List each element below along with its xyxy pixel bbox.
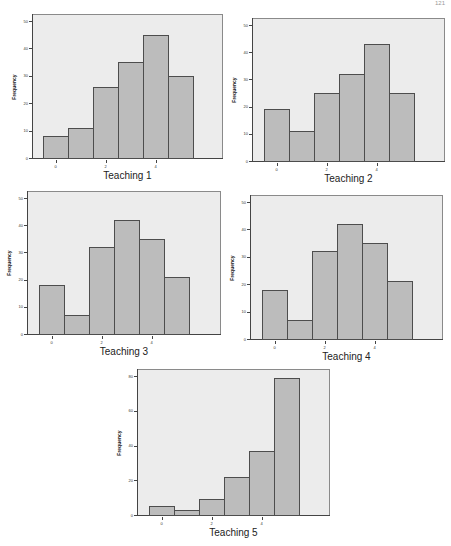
- x-tick-label: 0: [272, 167, 282, 172]
- bar-3: [224, 477, 250, 516]
- x-tick-label: 4: [372, 167, 382, 172]
- y-tick-label: 20: [236, 104, 248, 109]
- bar-1: [289, 131, 315, 162]
- y-tick-label: 50: [16, 19, 28, 24]
- y-tick: [134, 411, 137, 412]
- x-tick: [156, 160, 157, 163]
- y-tick-label: 20: [234, 282, 246, 287]
- y-tick: [247, 229, 250, 230]
- y-tick: [134, 515, 137, 516]
- y-tick-label: 10: [11, 304, 23, 309]
- bar-0: [43, 136, 69, 159]
- bar-4: [364, 44, 390, 162]
- y-tick: [134, 446, 137, 447]
- bar-0: [149, 506, 175, 516]
- y-tick: [247, 202, 250, 203]
- y-tick-label: 80: [121, 374, 133, 379]
- bar-1: [287, 320, 313, 340]
- bar-5: [168, 76, 194, 159]
- y-tick-label: 30: [234, 254, 246, 259]
- y-axis: [27, 191, 28, 335]
- x-tick: [375, 341, 376, 344]
- y-tick: [247, 284, 250, 285]
- y-tick: [24, 225, 27, 226]
- x-tick: [102, 336, 103, 339]
- bar-3: [337, 224, 363, 340]
- x-tick-label: 2: [207, 521, 217, 526]
- bar-2: [93, 87, 119, 159]
- x-tick-label: 2: [101, 164, 111, 169]
- y-tick-label: 10: [234, 309, 246, 314]
- bar-1: [174, 510, 200, 516]
- x-tick: [162, 517, 163, 520]
- y-tick-label: 50: [234, 200, 246, 205]
- y-tick: [29, 76, 32, 77]
- y-axis-label: Frequency: [116, 423, 122, 463]
- y-tick-label: 40: [16, 46, 28, 51]
- y-tick-label: 0: [16, 156, 28, 161]
- y-tick: [249, 79, 252, 80]
- x-tick-label: 0: [157, 521, 167, 526]
- x-tick: [275, 341, 276, 344]
- y-tick: [247, 257, 250, 258]
- bar-4: [249, 451, 275, 516]
- x-tick-label: 2: [322, 167, 332, 172]
- bar-5: [274, 378, 300, 516]
- y-tick: [29, 158, 32, 159]
- y-tick-label: 30: [236, 77, 248, 82]
- x-tick: [106, 160, 107, 163]
- y-tick-label: 0: [236, 159, 248, 164]
- y-tick-label: 10: [236, 131, 248, 136]
- y-tick-label: 10: [16, 128, 28, 133]
- x-tick-label: 2: [97, 340, 107, 345]
- y-tick: [134, 376, 137, 377]
- chart-title: Teaching 1: [88, 170, 168, 181]
- y-tick-label: 20: [11, 277, 23, 282]
- bar-5: [389, 93, 415, 162]
- y-tick: [29, 103, 32, 104]
- y-tick-label: 60: [121, 408, 133, 413]
- y-axis: [32, 14, 33, 159]
- chart-title: Teaching 5: [194, 527, 274, 538]
- x-tick: [52, 336, 53, 339]
- y-tick: [24, 252, 27, 253]
- bar-4: [143, 35, 169, 159]
- y-tick-label: 50: [236, 23, 248, 28]
- bar-4: [362, 243, 388, 340]
- y-tick-label: 30: [16, 73, 28, 78]
- bar-2: [314, 93, 340, 162]
- y-tick-label: 30: [11, 250, 23, 255]
- chart-title: Teaching 3: [84, 346, 164, 357]
- bar-5: [387, 281, 413, 340]
- bar-0: [39, 285, 65, 335]
- chart-title: Teaching 2: [309, 173, 389, 184]
- y-tick: [134, 480, 137, 481]
- y-tick: [249, 52, 252, 53]
- bar-1: [68, 128, 94, 159]
- y-tick: [29, 21, 32, 22]
- bar-3: [118, 62, 144, 159]
- y-axis: [137, 369, 138, 516]
- y-axis-label: Frequency: [229, 248, 235, 288]
- y-tick: [247, 339, 250, 340]
- y-tick: [249, 107, 252, 108]
- x-tick: [325, 341, 326, 344]
- y-tick-label: 0: [121, 513, 133, 518]
- y-tick: [24, 307, 27, 308]
- y-tick-label: 0: [234, 337, 246, 342]
- y-tick-label: 40: [121, 443, 133, 448]
- x-tick-label: 4: [151, 164, 161, 169]
- x-tick: [277, 163, 278, 166]
- y-tick: [29, 48, 32, 49]
- y-tick-label: 40: [236, 50, 248, 55]
- y-tick: [24, 334, 27, 335]
- y-tick-label: 50: [11, 196, 23, 201]
- y-tick: [29, 131, 32, 132]
- x-tick: [377, 163, 378, 166]
- bar-2: [89, 247, 115, 335]
- x-tick-label: 0: [51, 164, 61, 169]
- y-tick-label: 0: [11, 332, 23, 337]
- x-tick-label: 4: [370, 345, 380, 350]
- bar-0: [264, 109, 290, 162]
- x-tick-label: 4: [147, 340, 157, 345]
